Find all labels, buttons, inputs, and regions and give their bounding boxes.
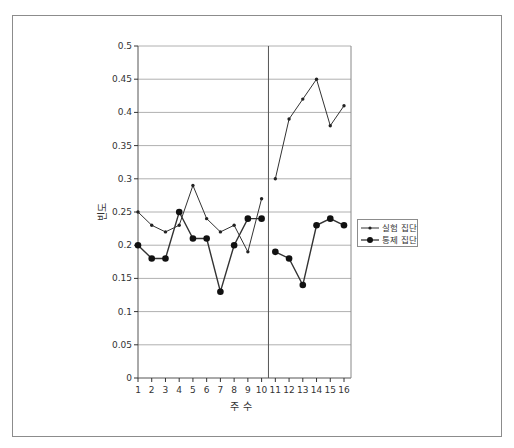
experimental-data-point — [315, 78, 318, 81]
x-tick-label: 1 — [135, 385, 141, 395]
data-series — [135, 78, 348, 295]
control-data-point — [217, 288, 224, 295]
x-axis-ticks: 12345678910111213141516 — [135, 378, 350, 395]
y-tick-label: 0.05 — [112, 340, 132, 350]
x-tick-label: 5 — [190, 385, 196, 395]
y-tick-label: 0.2 — [118, 240, 132, 250]
y-tick-label: 0.1 — [118, 307, 132, 317]
x-tick-label: 12 — [283, 385, 294, 395]
control-data-point — [286, 255, 293, 262]
x-tick-label: 7 — [218, 385, 224, 395]
y-axis-ticks: 00.050.10.150.20.250.30.350.40.450.5 — [112, 41, 138, 383]
experimental-data-point — [232, 224, 235, 227]
control-series-line — [138, 212, 262, 292]
experimental-data-point — [342, 104, 345, 107]
experimental-data-point — [219, 230, 222, 233]
y-tick-label: 0.15 — [112, 273, 132, 283]
legend-item-experimental: 실험 집단 — [361, 222, 417, 234]
control-data-point — [313, 222, 320, 229]
experimental-data-point — [260, 197, 263, 200]
legend: 실험 집단 통제 집단 — [357, 219, 418, 247]
control-data-point — [258, 215, 265, 222]
x-axis-title: 주 수 — [230, 401, 251, 412]
control-data-point — [176, 209, 183, 216]
experimental-data-point — [301, 97, 304, 100]
experimental-data-point — [246, 250, 249, 253]
x-tick-label: 15 — [325, 385, 336, 395]
control-data-point — [300, 282, 307, 289]
control-data-point — [162, 255, 169, 262]
x-tick-label: 2 — [149, 385, 155, 395]
experimental-data-point — [329, 124, 332, 127]
y-tick-label: 0.3 — [118, 174, 132, 184]
experimental-data-point — [178, 224, 181, 227]
x-tick-label: 16 — [338, 385, 350, 395]
control-series-line — [275, 219, 344, 285]
x-tick-label: 9 — [245, 385, 251, 395]
experimental-data-point — [136, 210, 139, 213]
x-tick-label: 14 — [311, 385, 323, 395]
gridlines — [138, 46, 351, 345]
experimental-data-point — [164, 230, 167, 233]
experimental-series-line — [138, 185, 262, 251]
experimental-data-point — [274, 177, 277, 180]
experimental-series-line — [275, 79, 344, 179]
control-data-point — [245, 215, 252, 222]
y-tick-label: 0 — [126, 373, 132, 383]
control-data-point — [190, 235, 197, 242]
legend-label: 실험 집단 — [382, 222, 417, 234]
legend-item-control: 통제 집단 — [361, 234, 417, 246]
y-tick-label: 0.45 — [112, 74, 132, 84]
control-data-point — [148, 255, 155, 262]
y-tick-label: 0.4 — [118, 107, 133, 117]
control-data-point — [231, 242, 238, 249]
x-tick-label: 6 — [204, 385, 210, 395]
experimental-data-point — [191, 184, 194, 187]
y-tick-label: 0.35 — [112, 141, 132, 151]
x-tick-label: 11 — [270, 385, 281, 395]
y-tick-label: 0.25 — [112, 207, 132, 217]
experimental-data-point — [287, 117, 290, 120]
control-data-point — [135, 242, 142, 249]
control-data-point — [272, 249, 279, 256]
large-circle-marker-icon — [361, 234, 379, 246]
control-data-point — [341, 222, 348, 229]
experimental-data-point — [150, 224, 153, 227]
x-tick-label: 10 — [256, 385, 268, 395]
y-axis-title: 빈도 — [97, 203, 108, 221]
x-tick-label: 4 — [176, 385, 182, 395]
control-data-point — [327, 215, 334, 222]
legend-label: 통제 집단 — [382, 234, 417, 246]
small-diamond-marker-icon — [361, 222, 379, 234]
x-tick-label: 8 — [231, 385, 237, 395]
control-data-point — [203, 235, 210, 242]
x-tick-label: 13 — [297, 385, 308, 395]
x-tick-label: 3 — [163, 385, 169, 395]
experimental-data-point — [205, 217, 208, 220]
y-tick-label: 0.5 — [118, 41, 132, 51]
line-chart: 00.050.10.150.20.250.30.350.40.450.5 123… — [0, 0, 514, 448]
